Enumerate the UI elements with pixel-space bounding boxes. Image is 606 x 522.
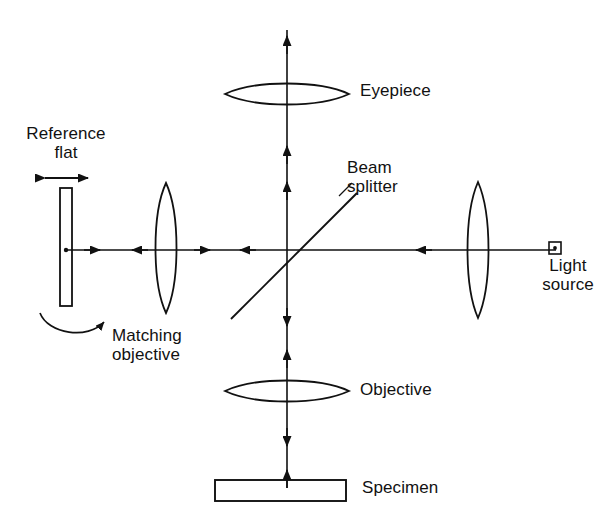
- optics-schematic-svg: [0, 0, 606, 522]
- label-reference-flat: Reference flat: [14, 124, 118, 162]
- beam-splitter: [231, 193, 357, 319]
- label-matching-objective: Matching objective: [112, 326, 224, 364]
- label-objective: Objective: [360, 380, 432, 399]
- label-eyepiece: Eyepiece: [360, 81, 431, 100]
- label-light-source: Light source: [534, 256, 602, 294]
- label-beam-splitter: Beam splitter: [347, 158, 439, 196]
- interference-microscope-diagram: Reference flat Matching objective Beam s…: [0, 0, 606, 522]
- label-specimen: Specimen: [362, 478, 438, 497]
- reference-flat: [60, 188, 72, 306]
- matching-objective-lens: [156, 183, 177, 313]
- rotation-arrow-icon: [40, 313, 104, 333]
- specimen-block: [215, 480, 346, 501]
- light-source-icon: [549, 242, 561, 254]
